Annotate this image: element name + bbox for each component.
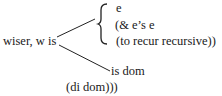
upper-branch-line — [57, 19, 95, 37]
upper-line-2: (& e’s e — [115, 18, 155, 32]
upper-line-1: e — [116, 1, 122, 15]
root-label: wiser, w is — [3, 34, 56, 48]
lower-branch-line — [59, 45, 110, 71]
curly-brace — [98, 4, 107, 44]
lower-line-2: (di dom))) — [66, 80, 118, 94]
upper-line-3: (to recur recursive)) — [116, 34, 216, 48]
lower-line-1: is dom — [111, 64, 145, 78]
